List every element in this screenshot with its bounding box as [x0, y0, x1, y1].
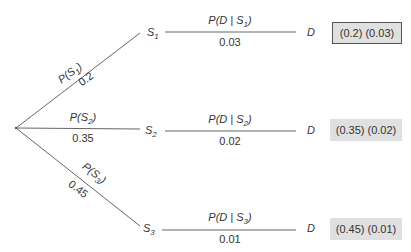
prior-label-s2: P(S2) [70, 111, 97, 126]
prior-value-s3: 0.45 [66, 178, 90, 201]
prior-value-s2: 0.35 [72, 132, 93, 144]
node-s2: S2 [145, 124, 157, 139]
outcome-d-s1: D [307, 26, 315, 38]
product-box-s1: (0.2) (0.03) [332, 22, 402, 44]
branch-line-s2 [16, 128, 140, 129]
product-box-s2: (0.35) (0.02) [330, 119, 402, 141]
node-s1: S1 [147, 26, 159, 41]
cond-value-s1: 0.03 [219, 36, 240, 48]
node-s3: S3 [143, 222, 155, 237]
cond-label-s1: P(D | S1) [208, 14, 252, 29]
root-node [15, 127, 17, 129]
cond-value-s3: 0.01 [219, 233, 240, 245]
outcome-d-s3: D [307, 222, 315, 234]
cond-value-s2: 0.02 [219, 135, 240, 147]
cond-label-s2: P(D | S2) [208, 113, 252, 128]
cond-label-s3: P(D | S3) [208, 211, 252, 226]
outcome-d-s2: D [307, 124, 315, 136]
product-box-s3: (0.45) (0.01) [330, 218, 402, 240]
